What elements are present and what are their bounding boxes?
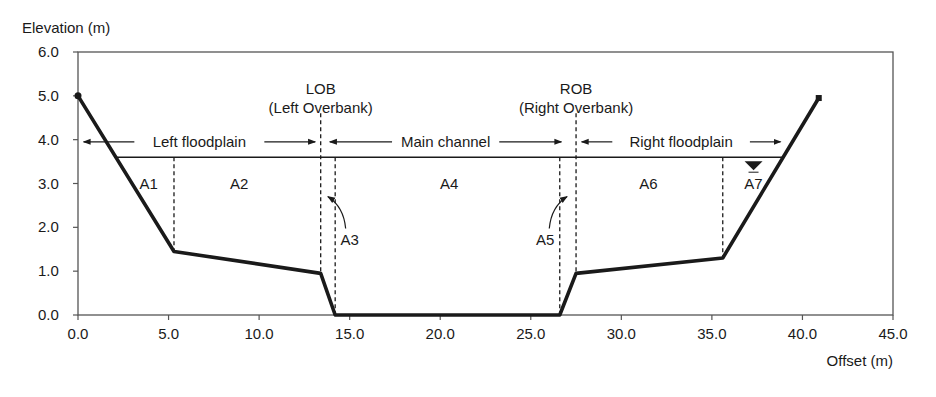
water-surface (114, 157, 784, 172)
y-tick-label: 5.0 (38, 87, 59, 104)
bank-station-label: (Right Overbank) (519, 99, 633, 116)
y-tick-label: 2.0 (38, 218, 59, 235)
x-tick-label: 10.0 (245, 325, 274, 342)
cross-section-chart: 0.05.010.015.020.025.030.035.040.045.00.… (0, 0, 936, 397)
x-tick-label: 0.0 (68, 325, 89, 342)
water-level-triangle-icon (745, 161, 763, 170)
y-tick-label: 1.0 (38, 262, 59, 279)
area-label-a3: A3 (340, 231, 358, 248)
area-pointer-arrow (549, 197, 567, 229)
area-label-a2: A2 (230, 175, 248, 192)
reach-label: Left floodplain (153, 133, 246, 150)
area-label-a5: A5 (536, 231, 554, 248)
plot-border (78, 52, 893, 315)
y-tick-label: 6.0 (38, 43, 59, 60)
x-axis-title: Offset (m) (827, 352, 893, 369)
profile-start-point (75, 92, 82, 99)
bank-station-label: ROB (560, 80, 593, 97)
x-tick-label: 25.0 (516, 325, 545, 342)
area-label-a4: A4 (440, 175, 458, 192)
x-tick-label: 30.0 (607, 325, 636, 342)
y-tick-label: 3.0 (38, 175, 59, 192)
channel-cross-section-figure: 0.05.010.015.020.025.030.035.040.045.00.… (0, 0, 936, 397)
x-tick-label: 20.0 (426, 325, 455, 342)
x-tick-label: 40.0 (788, 325, 817, 342)
x-tick-label: 35.0 (697, 325, 726, 342)
reach-label: Main channel (401, 133, 490, 150)
area-label-a6: A6 (639, 175, 657, 192)
area-pointer-arrow (328, 197, 346, 229)
plot-frame (78, 52, 893, 315)
x-tick-label: 15.0 (335, 325, 364, 342)
axis-ticks: 0.05.010.015.020.025.030.035.040.045.00.… (38, 43, 908, 342)
area-label-a7: A7 (744, 175, 762, 192)
bank-station-label: (Left Overbank) (269, 99, 373, 116)
x-tick-label: 5.0 (158, 325, 179, 342)
ground-profile-line (78, 96, 819, 315)
x-tick-label: 45.0 (878, 325, 907, 342)
y-tick-label: 0.0 (38, 306, 59, 323)
reach-label: Right floodplain (629, 133, 732, 150)
ground-profile (75, 92, 822, 315)
profile-end-point (816, 95, 822, 101)
y-tick-label: 4.0 (38, 131, 59, 148)
annotations: A1A2A3A4A5A6A7LOB(Left Overbank)ROB(Righ… (84, 80, 781, 249)
bank-station-label: LOB (306, 80, 336, 97)
area-label-a1: A1 (139, 175, 157, 192)
y-axis-title: Elevation (m) (22, 19, 110, 36)
